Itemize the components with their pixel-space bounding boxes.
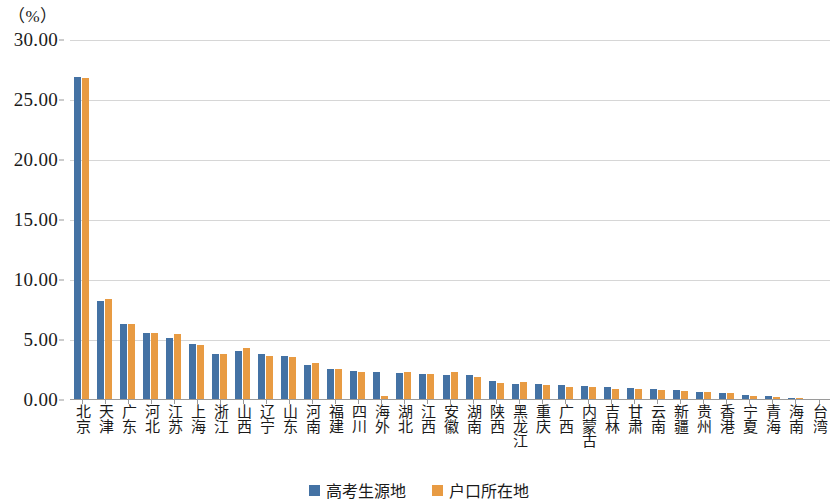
bar-group[interactable] bbox=[623, 40, 646, 400]
bar-group[interactable] bbox=[669, 40, 692, 400]
x-axis-label-cell: 贵州 bbox=[692, 404, 715, 476]
bar-group[interactable] bbox=[554, 40, 577, 400]
bar-group[interactable] bbox=[162, 40, 185, 400]
bar[interactable] bbox=[174, 334, 181, 400]
bar[interactable] bbox=[266, 356, 273, 400]
bar[interactable] bbox=[197, 345, 204, 400]
bar-group[interactable] bbox=[231, 40, 254, 400]
bar-group[interactable] bbox=[93, 40, 116, 400]
bar[interactable] bbox=[512, 384, 519, 400]
bar[interactable] bbox=[451, 372, 458, 400]
bar[interactable] bbox=[581, 386, 588, 400]
bar-group[interactable] bbox=[807, 40, 830, 400]
bar[interactable] bbox=[520, 382, 527, 400]
bar-group[interactable] bbox=[369, 40, 392, 400]
x-axis-label-cell: 湖南 bbox=[462, 404, 485, 476]
bar-group[interactable] bbox=[277, 40, 300, 400]
x-axis-tick-label: 云南 bbox=[650, 404, 665, 433]
bar[interactable] bbox=[327, 369, 334, 400]
bar-group[interactable] bbox=[508, 40, 531, 400]
bar-group[interactable] bbox=[254, 40, 277, 400]
x-axis-tick-label: 甘肃 bbox=[627, 404, 642, 433]
y-axis-tick-mark bbox=[59, 220, 64, 221]
x-axis-tick-label: 河南 bbox=[304, 404, 319, 433]
bar[interactable] bbox=[558, 385, 565, 400]
bar[interactable] bbox=[474, 377, 481, 400]
bar[interactable] bbox=[105, 299, 112, 400]
bar[interactable] bbox=[396, 373, 403, 400]
bar[interactable] bbox=[151, 333, 158, 400]
bar-group[interactable] bbox=[415, 40, 438, 400]
bar[interactable] bbox=[82, 78, 89, 400]
bar[interactable] bbox=[120, 324, 127, 400]
bar-group[interactable] bbox=[185, 40, 208, 400]
bar-group[interactable] bbox=[531, 40, 554, 400]
bar[interactable] bbox=[489, 381, 496, 400]
bar[interactable] bbox=[443, 375, 450, 400]
bar[interactable] bbox=[74, 77, 81, 400]
bar[interactable] bbox=[497, 383, 504, 400]
bar-group[interactable] bbox=[485, 40, 508, 400]
bar-group[interactable] bbox=[323, 40, 346, 400]
bar-group[interactable] bbox=[600, 40, 623, 400]
bar[interactable] bbox=[335, 369, 342, 400]
bar-group[interactable] bbox=[692, 40, 715, 400]
x-axis-label-cell: 福建 bbox=[323, 404, 346, 476]
bar-group[interactable] bbox=[577, 40, 600, 400]
bar-group[interactable] bbox=[715, 40, 738, 400]
x-axis-tick-label: 河北 bbox=[143, 404, 158, 433]
bar-group[interactable] bbox=[116, 40, 139, 400]
bar[interactable] bbox=[243, 348, 250, 400]
bar[interactable] bbox=[358, 372, 365, 400]
bar-group[interactable] bbox=[761, 40, 784, 400]
x-axis-tick-label: 江西 bbox=[419, 404, 434, 433]
bar[interactable] bbox=[212, 354, 219, 400]
x-axis-label-cell: 河南 bbox=[300, 404, 323, 476]
bar-group[interactable] bbox=[738, 40, 761, 400]
bar-group[interactable] bbox=[462, 40, 485, 400]
bar-group[interactable] bbox=[300, 40, 323, 400]
bar[interactable] bbox=[419, 374, 426, 400]
y-axis-tick-mark bbox=[59, 340, 64, 341]
bar[interactable] bbox=[281, 356, 288, 400]
bar-group[interactable] bbox=[70, 40, 93, 400]
x-axis-tick-label: 浙江 bbox=[212, 404, 227, 433]
bar-group[interactable] bbox=[139, 40, 162, 400]
bar[interactable] bbox=[143, 333, 150, 400]
legend-item[interactable]: 高考生源地 bbox=[309, 478, 406, 502]
bar[interactable] bbox=[312, 363, 319, 400]
bar[interactable] bbox=[427, 374, 434, 400]
bar[interactable] bbox=[220, 354, 227, 400]
bar-group[interactable] bbox=[646, 40, 669, 400]
bar[interactable] bbox=[404, 372, 411, 400]
x-axis-tick-label: 海南 bbox=[788, 404, 803, 433]
bar[interactable] bbox=[535, 384, 542, 400]
x-axis-label-cell: 辽宁 bbox=[254, 404, 277, 476]
bar[interactable] bbox=[543, 385, 550, 400]
x-axis-label-cell: 海南 bbox=[784, 404, 807, 476]
bar[interactable] bbox=[304, 365, 311, 400]
bar-group[interactable] bbox=[439, 40, 462, 400]
bar[interactable] bbox=[189, 344, 196, 400]
bar[interactable] bbox=[258, 354, 265, 400]
y-axis-tick-mark bbox=[59, 400, 64, 401]
bar[interactable] bbox=[166, 338, 173, 400]
bar-group[interactable] bbox=[208, 40, 231, 400]
bar[interactable] bbox=[97, 301, 104, 400]
bar[interactable] bbox=[235, 351, 242, 400]
bar[interactable] bbox=[289, 357, 296, 400]
bar[interactable] bbox=[128, 324, 135, 400]
bar[interactable] bbox=[466, 375, 473, 400]
plot-area bbox=[70, 40, 830, 400]
bar-group[interactable] bbox=[346, 40, 369, 400]
x-axis-tick-label: 黑龙江 bbox=[512, 404, 527, 448]
bar[interactable] bbox=[373, 372, 380, 400]
bar-group[interactable] bbox=[784, 40, 807, 400]
x-axis-label-cell: 重庆 bbox=[531, 404, 554, 476]
legend-item[interactable]: 户口所在地 bbox=[432, 478, 529, 502]
x-axis-label-cell: 黑龙江 bbox=[508, 404, 531, 476]
bar-group[interactable] bbox=[392, 40, 415, 400]
bar[interactable] bbox=[350, 371, 357, 400]
x-axis-tick-label: 广东 bbox=[120, 404, 135, 433]
y-axis-unit-caption: （%） bbox=[8, 2, 58, 27]
